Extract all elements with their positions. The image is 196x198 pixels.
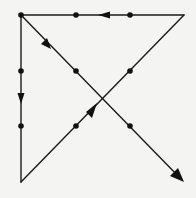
dot <box>18 123 24 129</box>
dot <box>73 123 79 129</box>
arrow-down-icon <box>18 93 25 104</box>
dot <box>18 12 24 18</box>
dot <box>73 12 79 18</box>
arrow-up-right-icon <box>86 103 97 118</box>
dot <box>127 12 133 18</box>
segment-diagonal-down <box>21 15 181 179</box>
arrow-left-icon <box>98 12 110 19</box>
nine-dots-diagram <box>0 0 196 198</box>
dot <box>127 123 133 129</box>
dot <box>18 68 24 74</box>
dot <box>127 68 133 74</box>
dot <box>73 68 79 74</box>
